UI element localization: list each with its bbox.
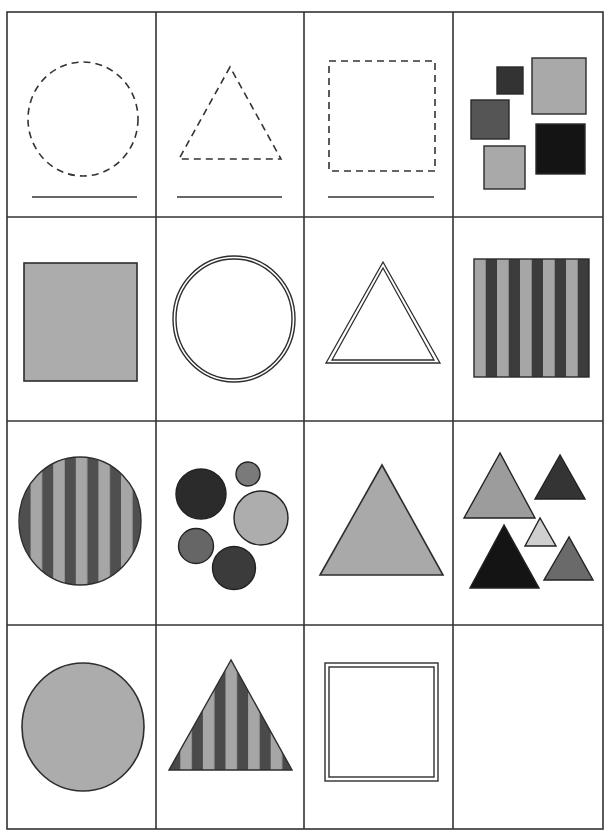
striped-circle-shape [19, 457, 141, 585]
cell-triangles-group [464, 453, 593, 588]
double-triangle-outer [326, 262, 440, 363]
cell-filled-triangle [320, 465, 443, 575]
dashed-square-shape [329, 61, 435, 171]
shapes-worksheet [0, 0, 610, 834]
cell-empty [454, 626, 602, 828]
dashed-triangle-shape [179, 67, 281, 159]
square-small-dark [497, 67, 523, 94]
circle-dark-gray [213, 547, 256, 590]
gray-triangle-shape [320, 465, 443, 575]
triangle-dark [535, 455, 585, 499]
circle-medium-gray [179, 529, 214, 564]
square-medium-gray [471, 100, 509, 139]
cell-dashed-triangle [177, 67, 282, 197]
triangle-pale [525, 518, 556, 546]
dashed-circle-shape [28, 62, 138, 176]
cell-striped-circle [19, 457, 141, 585]
circle-small-gray [236, 462, 260, 486]
circle-light [234, 491, 288, 545]
cell-dashed-square [328, 61, 435, 197]
double-circle-outer [173, 256, 295, 382]
circle-dark [176, 469, 226, 519]
cell-double-circle [173, 256, 295, 382]
double-triangle-inner [332, 268, 434, 360]
cell-double-triangle [326, 262, 440, 363]
gray-square-shape [24, 263, 137, 381]
striped-square-shape [474, 259, 589, 377]
gray-circle-shape [22, 663, 144, 791]
cell-filled-square [24, 263, 137, 381]
cell-double-square [325, 663, 438, 781]
striped-triangle-shape [169, 660, 292, 770]
cell-dashed-circle [28, 62, 138, 197]
empty-cell-area [454, 626, 602, 828]
square-light [484, 146, 525, 189]
square-black [536, 124, 585, 174]
cell-filled-circle [22, 663, 144, 791]
double-circle-inner [176, 259, 292, 379]
double-square-inner [329, 667, 434, 777]
double-square-outer [325, 663, 438, 781]
square-large-light [532, 58, 586, 114]
cell-squares-group [471, 58, 586, 189]
cell-circles-group [176, 462, 288, 590]
triangle-black [470, 525, 539, 588]
cell-striped-triangle [169, 660, 292, 770]
triangle-large-gray [464, 453, 535, 518]
cell-striped-square [474, 259, 589, 377]
